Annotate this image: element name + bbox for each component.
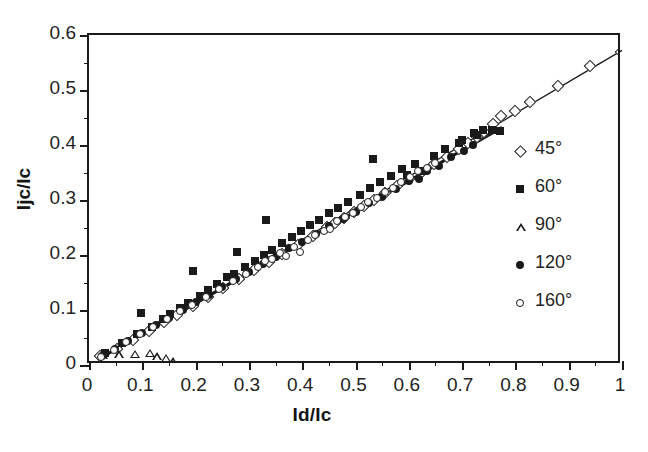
y-axis-title: Ijc/Ic [13,119,35,259]
data-point-circle-open [97,353,105,361]
x-tick-label: 0.3 [217,375,277,394]
data-point-triangle-open [168,357,178,361]
data-point-circle-open [202,293,210,301]
data-point-square-fill [297,227,305,235]
legend: 45°60°90°120°160° [516,138,612,328]
legend-marker-square-fill-icon [516,185,524,193]
x-tick-label: 0.2 [164,375,224,394]
data-point-square-fill [441,145,449,153]
x-axis-title-text: Id/Ic [292,404,331,426]
data-point-circle-open [349,209,357,217]
x-major-tick [622,361,624,370]
data-point-square-fill [356,191,364,199]
x-tick-label: 1 [590,375,648,394]
data-point-circle-open [110,346,118,354]
x-tick-label: 0.6 [377,375,437,394]
data-point-circle-open [423,164,431,172]
x-tick-label: 0.9 [537,375,597,394]
data-point-circle-open [268,255,276,263]
data-point-circle-open [254,263,262,271]
x-tick-label: 0.1 [110,375,170,394]
x-axis-title: Id/Ic [0,404,648,426]
y-major-tick [80,90,89,92]
x-tick-label: 0.7 [430,375,490,394]
data-point-circle-open [188,301,196,309]
data-point-circle-open [431,159,439,167]
y-tick-label: 0.6 [16,23,76,42]
legend-item-120deg[interactable]: 120° [516,252,612,290]
legend-item-60deg[interactable]: 60° [516,176,612,214]
y-major-tick [80,200,89,202]
data-point-circle-open [282,252,290,260]
data-point-square-fill [233,248,241,256]
data-point-circle-open [122,338,130,346]
data-point-circle-open [136,330,144,338]
data-point-circle-open [242,270,250,278]
data-point-circle-open [389,184,397,192]
data-point-square-fill [325,209,333,217]
data-point-square-fill [496,127,504,135]
data-point-diamond-open [509,105,522,118]
data-point-circle-open [364,198,372,206]
data-point-circle-fill [447,153,455,161]
y-major-tick [80,35,89,37]
y-major-tick [80,365,89,367]
data-point-circle-fill [460,147,468,155]
data-point-diamond-open [584,60,597,73]
scatter-chart-figure: 00.10.20.30.40.50.6 00.10.20.30.40.50.60… [0,0,648,452]
legend-label: 160° [535,290,572,310]
data-point-circle-open [296,248,304,256]
data-point-circle-open [229,277,237,285]
data-point-square-fill [306,221,314,229]
data-point-square-fill [387,172,395,180]
y-major-tick [80,145,89,147]
x-tick-label: 0 [57,375,117,394]
data-point-circle-open [311,231,319,239]
data-point-square-fill [376,178,384,186]
data-point-square-fill [278,239,286,247]
legend-label: 90° [535,214,562,234]
legend-marker-circle-open-icon [516,299,524,307]
y-tick-label: 0.5 [16,78,76,97]
data-point-circle-open [149,323,157,331]
legend-item-45deg[interactable]: 45° [516,138,612,176]
y-tick-label: 0.1 [16,298,76,317]
legend-marker-circle-fill-icon [516,261,524,269]
legend-label: 45° [535,138,562,158]
data-point-circle-open [215,285,223,293]
data-point-square-fill [369,155,377,163]
data-point-square-fill [288,233,296,241]
data-point-square-fill [488,126,496,134]
data-point-square-fill [479,126,487,134]
legend-marker-triangle-open-icon [516,223,526,231]
data-point-square-fill [334,204,342,212]
data-point-square-fill [458,136,466,144]
data-point-diamond-open [615,45,618,58]
legend-item-160deg[interactable]: 160° [516,290,612,328]
x-tick-label: 0.8 [483,375,543,394]
data-point-circle-open [397,178,405,186]
x-tick-label: 0.5 [324,375,384,394]
data-point-square-fill [344,198,352,206]
data-point-circle-fill [469,141,477,149]
data-point-circle-fill [415,175,423,183]
data-point-diamond-open [551,79,564,92]
data-point-triangle-open [130,350,140,358]
data-point-circle-open [406,173,414,181]
data-point-square-fill [315,216,323,224]
x-tick-label: 0.4 [270,375,330,394]
data-point-diamond-open [524,96,537,109]
data-point-circle-open [414,167,422,175]
legend-label: 60° [535,176,562,196]
data-point-circle-open [326,225,334,233]
legend-item-90deg[interactable]: 90° [516,214,612,252]
data-point-square-fill [137,309,145,317]
data-point-circle-open [373,194,381,202]
legend-marker-diamond-open-icon [514,145,527,158]
data-point-circle-open [341,213,349,221]
data-point-circle-open [304,236,312,244]
data-point-square-fill [262,216,270,224]
y-major-tick [80,310,89,312]
data-point-circle-open [176,307,184,315]
legend-label: 120° [535,252,572,272]
